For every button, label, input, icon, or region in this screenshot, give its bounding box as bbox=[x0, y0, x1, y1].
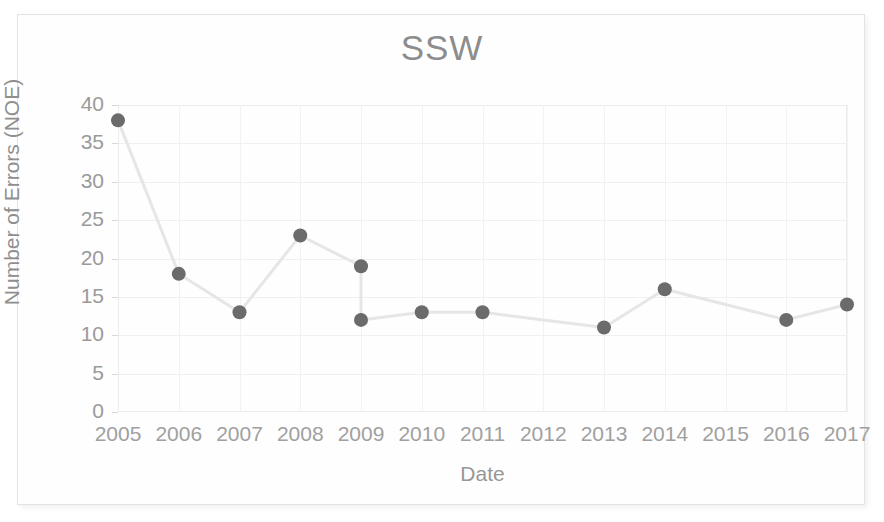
y-axis-title: Number of Errors (NOE) bbox=[0, 0, 24, 392]
y-tick-label: 15 bbox=[58, 284, 104, 308]
chart-canvas: SSW Number of Errors (NOE) Date 05101520… bbox=[0, 0, 884, 522]
x-tick-label: 2008 bbox=[270, 422, 330, 446]
x-tick-label: 2012 bbox=[513, 422, 573, 446]
y-tickmark bbox=[112, 412, 118, 413]
gridline-vertical bbox=[847, 105, 848, 412]
x-tick-label: 2010 bbox=[392, 422, 452, 446]
data-series-ssw bbox=[118, 105, 847, 412]
data-point-marker bbox=[840, 298, 854, 312]
y-tick-label: 20 bbox=[58, 246, 104, 270]
data-point-marker bbox=[233, 305, 247, 319]
y-tick-label: 10 bbox=[58, 322, 104, 346]
data-point-marker bbox=[597, 321, 611, 335]
y-tick-label: 40 bbox=[58, 92, 104, 116]
y-tick-label: 30 bbox=[58, 169, 104, 193]
chart-title: SSW bbox=[0, 28, 884, 68]
data-point-marker bbox=[415, 305, 429, 319]
series-line bbox=[118, 120, 847, 327]
y-tick-label: 5 bbox=[58, 361, 104, 385]
chart-page: SSW Number of Errors (NOE) Date 05101520… bbox=[0, 0, 884, 522]
data-point-marker bbox=[111, 113, 125, 127]
x-axis-title: Date bbox=[118, 462, 847, 486]
x-tick-label: 2007 bbox=[210, 422, 270, 446]
y-tick-label: 25 bbox=[58, 207, 104, 231]
y-tick-label: 0 bbox=[58, 399, 104, 423]
data-point-marker bbox=[476, 305, 490, 319]
x-tick-label: 2016 bbox=[756, 422, 816, 446]
y-tick-label: 35 bbox=[58, 130, 104, 154]
data-point-marker bbox=[354, 259, 368, 273]
x-tick-label: 2013 bbox=[574, 422, 634, 446]
data-point-marker bbox=[354, 313, 368, 327]
x-tick-label: 2011 bbox=[453, 422, 513, 446]
plot-area bbox=[118, 105, 847, 412]
x-tick-label: 2017 bbox=[817, 422, 877, 446]
data-point-marker bbox=[658, 282, 672, 296]
data-point-marker bbox=[172, 267, 186, 281]
x-tick-label: 2014 bbox=[635, 422, 695, 446]
x-tick-label: 2006 bbox=[149, 422, 209, 446]
x-tick-label: 2015 bbox=[696, 422, 756, 446]
data-point-marker bbox=[293, 228, 307, 242]
x-tick-label: 2005 bbox=[88, 422, 148, 446]
data-point-marker bbox=[779, 313, 793, 327]
x-tick-label: 2009 bbox=[331, 422, 391, 446]
